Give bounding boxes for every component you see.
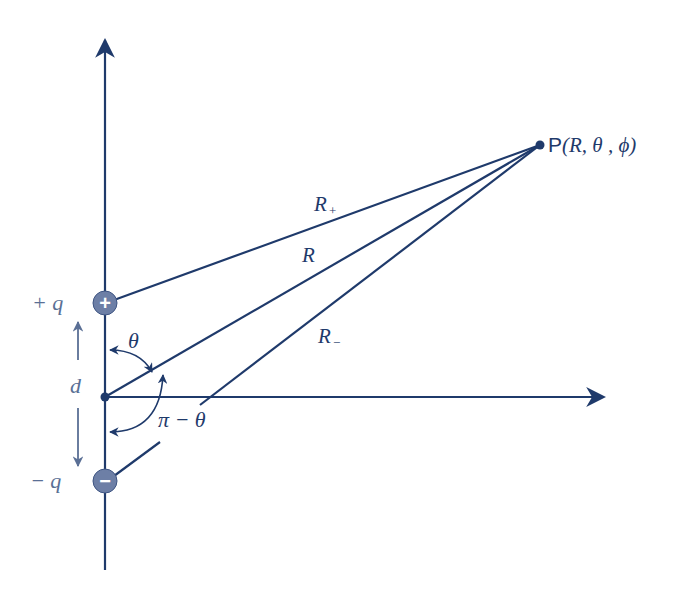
pi-minus-theta-label: π − θ xyxy=(158,407,206,432)
positive-charge-label: + q xyxy=(32,290,63,315)
point-p-label-prefix: P xyxy=(548,133,562,156)
r-minus-line-lower xyxy=(114,442,160,476)
point-p-label-args: (R, θ , ϕ) xyxy=(562,133,636,157)
r-minus-subscript: − xyxy=(333,335,340,350)
minus-symbol: − xyxy=(99,470,111,492)
r-plus-label: R xyxy=(313,192,327,216)
dipole-diagram: + − P (R, θ , ϕ) R + R R − + q − q θ π −… xyxy=(0,0,693,594)
point-p xyxy=(536,141,545,150)
theta-label: θ xyxy=(128,328,139,353)
r-label: R xyxy=(301,243,315,267)
plus-symbol: + xyxy=(99,292,111,314)
r-minus-label: R xyxy=(317,324,331,348)
separation-label: d xyxy=(70,373,82,398)
pi-minus-theta-arc xyxy=(110,375,163,432)
r-line xyxy=(105,145,540,397)
r-plus-subscript: + xyxy=(329,203,336,218)
r-minus-line xyxy=(200,145,540,405)
positive-charge: + xyxy=(93,291,117,315)
negative-charge: − xyxy=(93,469,117,493)
theta-arc xyxy=(110,350,152,372)
negative-charge-label: − q xyxy=(30,468,61,493)
origin-dot xyxy=(101,393,110,402)
r-plus-line xyxy=(114,145,540,300)
